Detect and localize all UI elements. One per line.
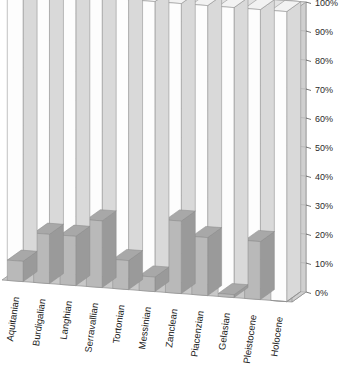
y-tick — [306, 89, 311, 91]
y-tick — [306, 205, 311, 207]
y-axis-tick-label: 30% — [315, 201, 333, 211]
x-axis-category-label: Serravallian — [82, 302, 100, 353]
column-remainder-face — [7, 0, 23, 261]
y-tick — [306, 292, 311, 294]
column-chart-3d: 0%10%20%30%40%50%60%70%80%90%100%Aquitan… — [0, 0, 345, 385]
y-axis-tick-label: 60% — [315, 114, 333, 124]
column-remainder-side — [102, 0, 116, 221]
column-fill-side — [181, 211, 195, 294]
column-fill-face — [7, 260, 23, 282]
column-remainder-side — [181, 0, 195, 221]
x-axis-labels: AquitanianBurdigalianLanghianSerravallia… — [4, 296, 285, 364]
y-tick — [306, 176, 311, 178]
y-tick — [306, 147, 311, 149]
columns — [7, 0, 300, 302]
y-axis-tick-label: 20% — [315, 230, 333, 240]
y-tick — [306, 263, 311, 265]
column-remainder-side — [234, 0, 248, 295]
x-axis-category-label: Gelasian — [216, 312, 232, 351]
x-axis-category-label: Langhian — [58, 300, 74, 340]
column-fill-side — [208, 228, 222, 296]
column-fill-side — [102, 211, 116, 288]
column-remainder-side — [260, 0, 274, 242]
x-axis-category-label: Tortonian — [110, 304, 126, 344]
y-axis-tick-label: 80% — [315, 56, 333, 66]
column-holocene[interactable] — [271, 0, 301, 301]
column-remainder-side — [49, 0, 63, 234]
column-serravallian[interactable] — [86, 0, 116, 288]
column-remainder-side — [208, 0, 222, 238]
x-axis-category-label: Holocene — [268, 316, 284, 357]
x-axis-category-label: Messinian — [136, 306, 153, 350]
column-fill-side — [49, 224, 63, 283]
column-messinian[interactable] — [139, 0, 169, 292]
column-langhian[interactable] — [60, 0, 90, 286]
column-aquitanian[interactable] — [7, 0, 37, 282]
column-zanclean[interactable] — [165, 0, 195, 294]
y-tick — [306, 31, 311, 33]
column-remainder-side — [23, 0, 37, 261]
y-axis-tick-label: 0% — [315, 288, 328, 298]
x-axis-category-label: Piacenzian — [188, 310, 205, 358]
y-tick — [306, 60, 311, 62]
y-axis-tick-label: 50% — [315, 143, 333, 153]
y-tick — [306, 118, 311, 120]
y-tick — [306, 234, 311, 236]
column-fill-side — [76, 226, 90, 285]
y-tick — [306, 2, 311, 4]
x-axis-category-label: Zanclean — [163, 308, 179, 348]
column-fill-side — [260, 232, 274, 300]
x-axis-category-label: Pleistocene — [241, 314, 259, 364]
column-burdigalian[interactable] — [34, 0, 64, 284]
column-gelasian[interactable] — [218, 0, 248, 298]
y-axis-tick-label: 40% — [315, 172, 333, 182]
y-axis-tick-label: 10% — [315, 259, 333, 269]
y-axis-tick-label: 70% — [315, 85, 333, 95]
column-pleistocene[interactable] — [245, 0, 275, 300]
column-remainder-side — [155, 0, 169, 277]
column-remainder-side — [287, 2, 301, 302]
y-axis-tick-label: 90% — [315, 27, 333, 37]
x-axis-category-label: Burdigalian — [30, 298, 48, 347]
column-tortonian[interactable] — [113, 0, 143, 290]
chart-container: 0%10%20%30%40%50%60%70%80%90%100%Aquitan… — [0, 0, 345, 385]
column-piacenzian[interactable] — [192, 0, 222, 296]
column-remainder-side — [76, 0, 90, 236]
x-axis-category-label: Aquitanian — [4, 296, 21, 342]
column-remainder-side — [129, 0, 143, 261]
y-axis-tick-label: 100% — [315, 0, 338, 8]
y-axis: 0%10%20%30%40%50%60%70%80%90%100% — [306, 0, 338, 298]
